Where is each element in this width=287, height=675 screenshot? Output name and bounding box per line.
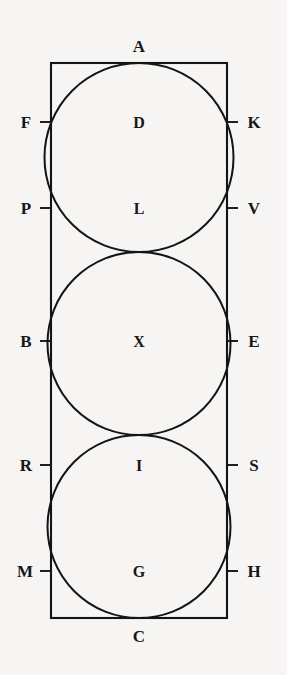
point-label-a: A xyxy=(133,38,145,55)
point-label-c: C xyxy=(133,628,145,645)
point-label-b: B xyxy=(20,333,31,350)
region-label-i: I xyxy=(136,457,142,474)
region-label-x: X xyxy=(133,333,145,350)
region-label-d: D xyxy=(133,114,145,131)
region-label-g: G xyxy=(133,563,145,580)
point-label-k: K xyxy=(247,114,260,131)
point-label-h: H xyxy=(247,563,260,580)
diagram-page: ACFPBRMKVESHDLXIG xyxy=(0,0,287,675)
point-label-v: V xyxy=(248,200,260,217)
top-circle xyxy=(45,63,234,252)
point-label-f: F xyxy=(21,114,31,131)
point-label-s: S xyxy=(249,457,258,474)
point-label-m: M xyxy=(17,563,33,580)
point-label-e: E xyxy=(248,333,259,350)
region-label-l: L xyxy=(134,200,145,217)
point-label-r: R xyxy=(20,457,32,474)
point-label-p: P xyxy=(21,200,31,217)
